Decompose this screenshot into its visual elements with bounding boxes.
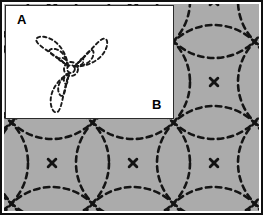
panel-a-contour-plot [6, 6, 173, 118]
panel-a-inset [5, 5, 174, 119]
trefoil-contour-group [36, 37, 107, 113]
panel-label-b: B [152, 98, 161, 111]
lattice-circle [76, 187, 190, 211]
figure-root: A B [0, 0, 263, 215]
trefoil-lobe-contour [75, 59, 84, 66]
panel-label-a: A [17, 13, 26, 26]
trefoil-lobe-contour [59, 58, 67, 66]
lattice-circle [4, 106, 28, 211]
trefoil-lobe-contour [64, 74, 70, 84]
